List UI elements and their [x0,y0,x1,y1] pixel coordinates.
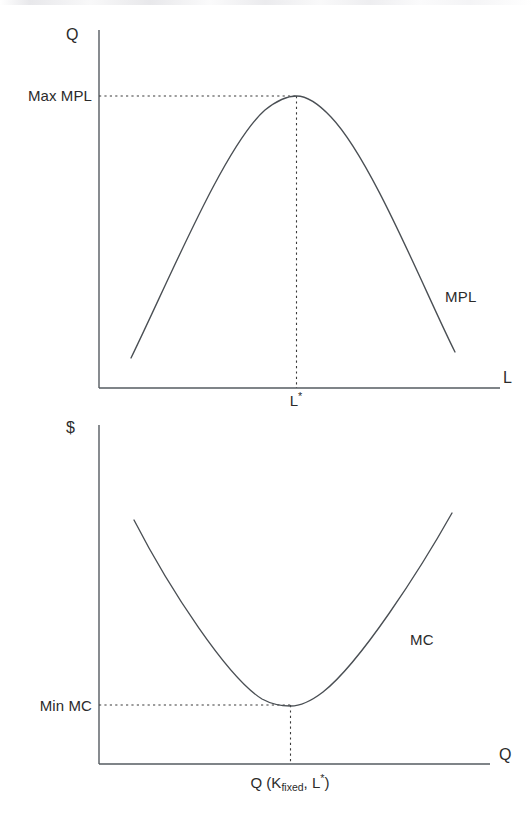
mc-curve [134,513,452,706]
l-star-superscript: * [298,390,302,402]
mc-curve-label: MC [410,632,458,647]
figure-root: Q Max MPL L L* MPL $ Min MC Q Q (Kfixed,… [0,0,532,824]
l-star-base: L [290,392,298,409]
mpl-y-axis-label: Q [66,27,92,43]
mpl-curve [131,96,455,358]
mpl-panel [99,30,500,388]
mc-y-axis-label: $ [66,420,88,436]
max-mpl-tick-label: Max MPL [0,88,92,103]
mc-x-axis-label: Q [499,747,523,763]
q-label-part3: ) [324,774,329,791]
q-label-subscript: fixed [281,781,303,793]
mpl-x-axis-label: L [503,370,527,386]
min-mc-tick-label: Min MC [0,698,92,713]
mc-panel [99,425,490,764]
q-label-part2: , L [304,774,321,791]
l-star-tick-label: L* [272,393,320,408]
q-kfixed-lstar-tick-label: Q (Kfixed, L*) [200,775,380,790]
mpl-curve-label: MPL [445,289,501,304]
q-label-part1: Q (K [251,774,282,791]
